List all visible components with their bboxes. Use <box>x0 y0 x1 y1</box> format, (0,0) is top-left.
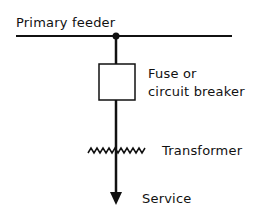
service-arrow-icon <box>110 192 122 205</box>
fuse-label-line1: Fuse or <box>148 66 197 81</box>
distribution-diagram <box>0 0 275 217</box>
transformer-label: Transformer <box>162 143 242 158</box>
service-label: Service <box>142 191 191 206</box>
fuse-label-line2: circuit breaker <box>148 84 245 99</box>
fuse-box <box>99 64 135 100</box>
primary-feeder-label: Primary feeder <box>16 15 115 30</box>
